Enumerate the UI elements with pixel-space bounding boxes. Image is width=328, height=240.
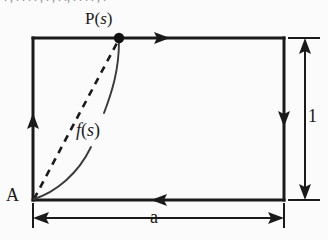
height-dimension-label: 1 — [308, 107, 317, 125]
figure-canvas — [0, 0, 328, 240]
point-p-label-prefix: P( — [85, 9, 100, 28]
width-dimension — [33, 203, 284, 228]
function-f-label-close-paren: ) — [94, 120, 100, 140]
point-p-marker — [114, 33, 124, 43]
point-p-label: P(s) — [85, 10, 112, 27]
function-f-label: f(s) — [76, 121, 100, 139]
lower-leader-curve — [34, 147, 91, 199]
function-f-label-variable: s — [87, 120, 94, 140]
figure-container: . , . . . . , . , . ., . . . . , . — [0, 0, 328, 240]
corner-a-label: A — [6, 186, 19, 204]
point-p-label-variable: s — [100, 9, 107, 28]
width-dimension-label: a — [150, 208, 158, 226]
upper-leader-curve — [104, 41, 119, 113]
point-p-label-suffix: ) — [107, 9, 113, 28]
